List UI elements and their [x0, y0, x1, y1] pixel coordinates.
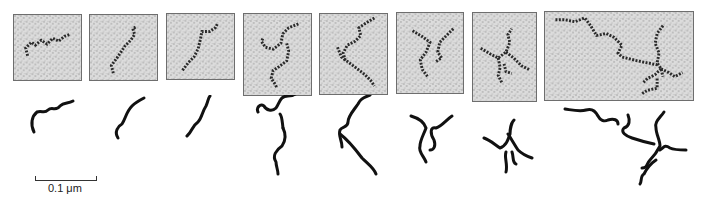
chain-image-8	[545, 12, 693, 100]
tracing-8c	[642, 112, 664, 168]
micrograph-panel-6	[396, 12, 464, 94]
micrograph-panel-7	[472, 12, 537, 102]
chain-image-1	[14, 15, 81, 80]
tracing-6b	[430, 116, 452, 150]
micrograph-panel-1	[13, 14, 82, 81]
tracing-7d	[512, 152, 516, 164]
micrograph-panel-4	[243, 13, 312, 96]
tracing-2	[116, 98, 144, 138]
tracing-3	[187, 96, 210, 136]
chain-image-2	[90, 15, 157, 80]
chain-image-7	[473, 13, 536, 101]
tracing-6a	[411, 116, 426, 162]
micrograph-panel-2	[89, 14, 158, 81]
tracing-4b	[274, 128, 285, 174]
tracing-7c	[505, 152, 506, 172]
micrograph-panel-5	[319, 13, 388, 95]
chain-image-3	[167, 14, 234, 79]
chain-image-4	[244, 14, 311, 95]
tracing-8a	[565, 109, 618, 124]
micrograph-panel-3	[166, 13, 235, 80]
tracings	[0, 95, 707, 199]
tracing-8b	[623, 115, 654, 144]
tracing-4c	[280, 114, 283, 128]
chain-image-5	[320, 14, 387, 94]
scale-bar-label: 0.1 μm	[48, 182, 82, 194]
tracing-8d	[660, 146, 686, 150]
micrograph-panel-8	[544, 11, 694, 101]
tracing-4a	[257, 95, 298, 112]
chain-image-6	[397, 13, 463, 93]
tracing-1	[32, 101, 73, 132]
scale-bar	[35, 176, 97, 181]
tracing-5b	[340, 134, 376, 174]
